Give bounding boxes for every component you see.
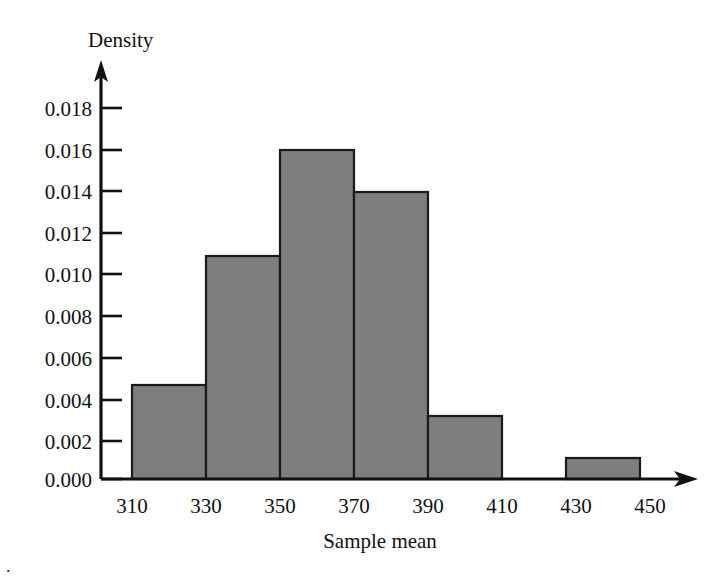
x-tick-label-330: 330 [169,496,243,517]
y-tick-label-0.012: 0.012 [0,224,92,245]
x-tick-label-450: 450 [613,496,687,517]
y-tick-label-0.004: 0.004 [0,391,92,412]
y-tick-label-0.014: 0.014 [0,182,92,203]
x-tick-label-350: 350 [243,496,317,517]
chart-canvas [0,0,726,580]
bar-350-370 [280,150,354,479]
bar-430-450 [566,458,640,479]
y-tick-label-0.000: 0.000 [0,470,92,491]
bar-310-330 [132,385,206,479]
y-tick-label-0.002: 0.002 [0,432,92,453]
y-axis-title: Density [88,30,153,51]
y-tick-label-0.016: 0.016 [0,141,92,162]
y-tick-label-0.018: 0.018 [0,99,92,120]
bar-390-410 [428,416,502,479]
corner-dot-mark: . [6,556,11,577]
bar-330-350 [206,256,280,479]
x-tick-label-390: 390 [391,496,465,517]
y-axis [94,60,108,479]
y-tick-label-0.008: 0.008 [0,307,92,328]
x-tick-label-410: 410 [465,496,539,517]
y-tick-label-0.010: 0.010 [0,265,92,286]
x-tick-label-310: 310 [95,496,169,517]
y-tick-marks [101,108,122,479]
bar-series [132,150,640,479]
x-axis-title: Sample mean [250,531,510,552]
x-tick-label-370: 370 [317,496,391,517]
y-tick-label-0.006: 0.006 [0,349,92,370]
histogram-chart: Density 0.018 0.016 0.014 0.012 0.010 0.… [0,0,726,580]
x-tick-label-430: 430 [539,496,613,517]
bar-370-390 [354,192,428,479]
